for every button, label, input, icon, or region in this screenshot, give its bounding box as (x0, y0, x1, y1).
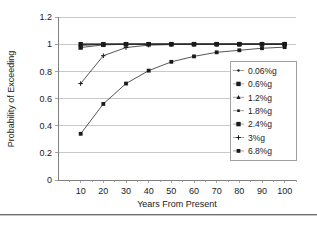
legend-sample-marker (237, 149, 241, 153)
y-tick-label: 0.4 (39, 121, 52, 131)
figure-bottom-rule-shadow (0, 215, 317, 216)
legend-item-label: 1.2%g (248, 93, 272, 103)
chart-legend: 0.06%g0.6%g1.2%g1.8%g2.4%g3%g6.8%g (230, 61, 296, 161)
data-point (101, 43, 105, 47)
data-point (101, 102, 105, 106)
legend-item-label: 6.8%g (248, 146, 272, 156)
legend-item-label: 3%g (248, 133, 265, 143)
x-tick-label: 40 (144, 186, 154, 196)
x-tick-label: 60 (189, 186, 199, 196)
probability-of-exceeding-line-chart: 00.20.40.60.811.2 102030405060708090100 … (0, 0, 317, 226)
data-point (79, 132, 83, 136)
legend-item-label: 2.4%g (248, 119, 272, 129)
data-point (237, 149, 241, 153)
data-point (124, 82, 128, 86)
y-tick-label: 0.6 (39, 94, 52, 104)
legend-sample-marker (236, 82, 240, 86)
x-tick-label: 100 (277, 186, 292, 196)
data-point (236, 122, 240, 126)
x-tick-label: 50 (166, 186, 176, 196)
legend-item-label: 0.06%g (248, 66, 277, 76)
data-point (260, 46, 264, 50)
data-point (236, 82, 240, 86)
x-tick-label: 20 (98, 186, 108, 196)
legend-sample-marker (237, 109, 240, 112)
legend-item-label: 0.6%g (248, 79, 272, 89)
x-tick-label: 70 (212, 186, 222, 196)
data-point (237, 69, 239, 71)
data-point (78, 45, 82, 49)
legend-sample-marker (237, 69, 239, 71)
data-point (192, 54, 196, 58)
x-tick-label: 30 (121, 186, 131, 196)
y-tick-label: 0.2 (39, 148, 52, 158)
x-tick-label: 80 (234, 186, 244, 196)
y-tick-label: 0 (47, 175, 52, 185)
data-point (283, 45, 287, 49)
y-tick-label: 0.8 (39, 67, 52, 77)
y-axis-title: Probability of Exceeding (6, 51, 16, 148)
x-tick-label: 90 (257, 186, 267, 196)
x-tick-label: 10 (76, 186, 86, 196)
x-axis-tick-labels: 102030405060708090100 (76, 186, 293, 196)
chart-figure: 00.20.40.60.811.2 102030405060708090100 … (0, 0, 317, 226)
data-point (147, 69, 151, 73)
x-axis-title: Years From Present (137, 199, 217, 209)
legend-sample-marker (236, 122, 240, 126)
data-point (237, 109, 240, 112)
data-point (237, 48, 241, 52)
data-point (215, 50, 219, 54)
y-axis-tick-labels: 00.20.40.60.811.2 (39, 12, 52, 185)
data-point (169, 60, 173, 64)
y-tick-label: 1 (47, 39, 52, 49)
legend-item-label: 1.8%g (248, 106, 272, 116)
y-tick-label: 1.2 (39, 12, 52, 22)
